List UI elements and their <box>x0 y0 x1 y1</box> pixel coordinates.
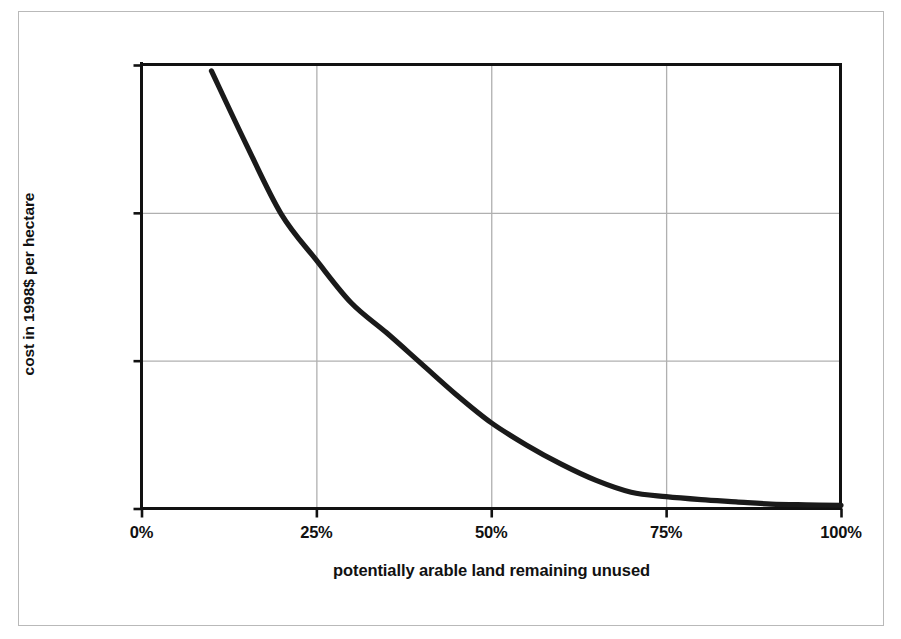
x-tick-label-0: 0% <box>130 523 153 542</box>
x-tick-label-75: 75% <box>650 523 682 542</box>
x-tick-label-100: 100% <box>820 523 861 542</box>
x-axis-tick-labels: 0%25%50%75%100% <box>0 0 901 639</box>
chart-figure: cost in 1998$ per hectare potentially ar… <box>0 0 901 639</box>
x-tick-label-50: 50% <box>475 523 507 542</box>
x-tick-label-25: 25% <box>300 523 332 542</box>
